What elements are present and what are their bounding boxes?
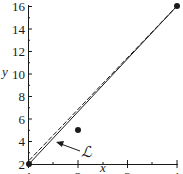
data-point: [174, 3, 180, 9]
x-axis-label: x: [99, 160, 106, 174]
annotation-arrow: [61, 144, 80, 151]
curve-annotation: ℒ: [56, 141, 93, 160]
x-tick-2: 2: [75, 169, 82, 174]
x-tick-3: 3: [124, 169, 131, 174]
y-tick-2: 2: [19, 157, 26, 172]
x-tick-4: 4: [173, 169, 180, 174]
x-tick-1: 1: [26, 169, 33, 174]
y-axis-label: y: [0, 64, 8, 79]
curve-label-L: ℒ: [81, 144, 93, 160]
y-tick-8: 8: [19, 89, 26, 104]
y-tick-labels: 16 14 12 10 8 6 4 2: [12, 0, 26, 172]
y-tick-4: 4: [19, 134, 26, 149]
y-tick-16: 16: [12, 0, 26, 14]
solid-line: [29, 6, 177, 164]
y-tick-6: 6: [19, 112, 26, 127]
arrowhead-icon: [56, 141, 64, 147]
y-tick-14: 14: [12, 22, 26, 37]
line-fit-chart: 16 14 12 10 8 6 4 2 1 2 3 4 y x ℒ: [0, 0, 183, 174]
dashed-line-L: [29, 6, 177, 161]
y-tick-12: 12: [12, 44, 25, 59]
data-point: [75, 127, 81, 133]
data-point: [26, 161, 32, 167]
y-tick-10: 10: [12, 67, 25, 82]
